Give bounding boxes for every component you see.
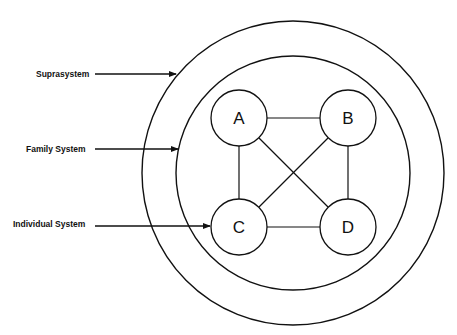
diagram-svg: A B C D Suprasystem Family System Indivi… bbox=[0, 0, 457, 335]
node-a-label: A bbox=[233, 109, 245, 128]
node-b: B bbox=[320, 90, 376, 146]
node-c-label: C bbox=[233, 218, 245, 237]
suprasystem-label: Suprasystem bbox=[36, 69, 90, 79]
family-system-label: Family System bbox=[26, 144, 86, 154]
node-b-label: B bbox=[342, 109, 353, 128]
individual-system-label: Individual System bbox=[13, 219, 86, 229]
node-d: D bbox=[320, 199, 376, 255]
node-c: C bbox=[211, 199, 267, 255]
node-d-label: D bbox=[342, 218, 354, 237]
family-systems-diagram: A B C D Suprasystem Family System Indivi… bbox=[0, 0, 457, 335]
node-a: A bbox=[211, 90, 267, 146]
